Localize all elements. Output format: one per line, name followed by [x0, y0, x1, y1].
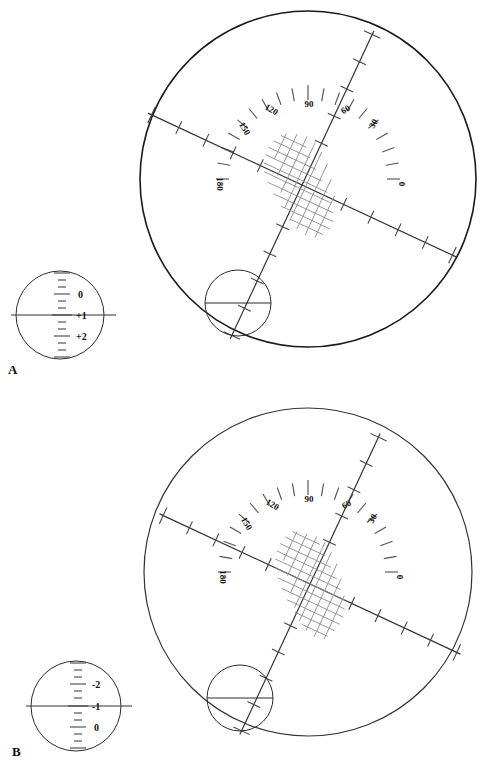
drum-label-plus1: +1 — [76, 310, 87, 321]
mire-cross — [89, 363, 496, 777]
protractor-label-120: 120 — [264, 497, 281, 513]
protractor-label-150: 150 — [237, 120, 253, 137]
drum-label-minus1: -1 — [92, 701, 100, 712]
eyepiece-view-b: 0 30 60 90 120 150 180 — [140, 396, 496, 766]
field-circle — [140, 11, 476, 347]
drum-label-0: 0 — [78, 289, 83, 300]
drum-label-minus2: -2 — [92, 679, 100, 690]
panel-label-a: A — [8, 362, 17, 378]
field-circle — [144, 408, 472, 736]
drum-label-plus2: +2 — [76, 331, 87, 342]
protractor-labels: 0 30 60 90 120 150 180 — [215, 99, 407, 191]
protractor-label-30: 30 — [366, 512, 379, 525]
mire-blur-patch — [251, 524, 370, 645]
protractor-label-0: 0 — [395, 574, 405, 579]
drum-ticks — [52, 273, 72, 357]
eyepiece-view-a: 0 30 60 90 120 150 180 — [120, 0, 496, 380]
mire-blur-patch — [242, 124, 362, 244]
protractor-label-150: 150 — [239, 515, 255, 532]
panel-a: 0 30 60 90 120 150 180 — [0, 0, 496, 390]
panel-label-b: B — [12, 744, 21, 760]
drum-ticks — [68, 663, 88, 748]
panel-b: 0 30 60 90 120 150 180 — [0, 390, 496, 777]
mire-cross — [76, 0, 496, 411]
protractor-label-0: 0 — [397, 181, 407, 186]
protractor-label-90: 90 — [305, 99, 315, 109]
reticle-circle — [205, 270, 271, 336]
protractor-label-120: 120 — [263, 102, 280, 118]
power-drum-b: -2 -1 0 — [22, 658, 134, 754]
protractor-label-180: 180 — [215, 177, 225, 191]
protractor-label-180: 180 — [218, 570, 228, 584]
power-drum-a: 0 +1 +2 — [8, 268, 118, 362]
drum-label-0: 0 — [94, 722, 99, 733]
protractor-label-90: 90 — [305, 494, 315, 504]
